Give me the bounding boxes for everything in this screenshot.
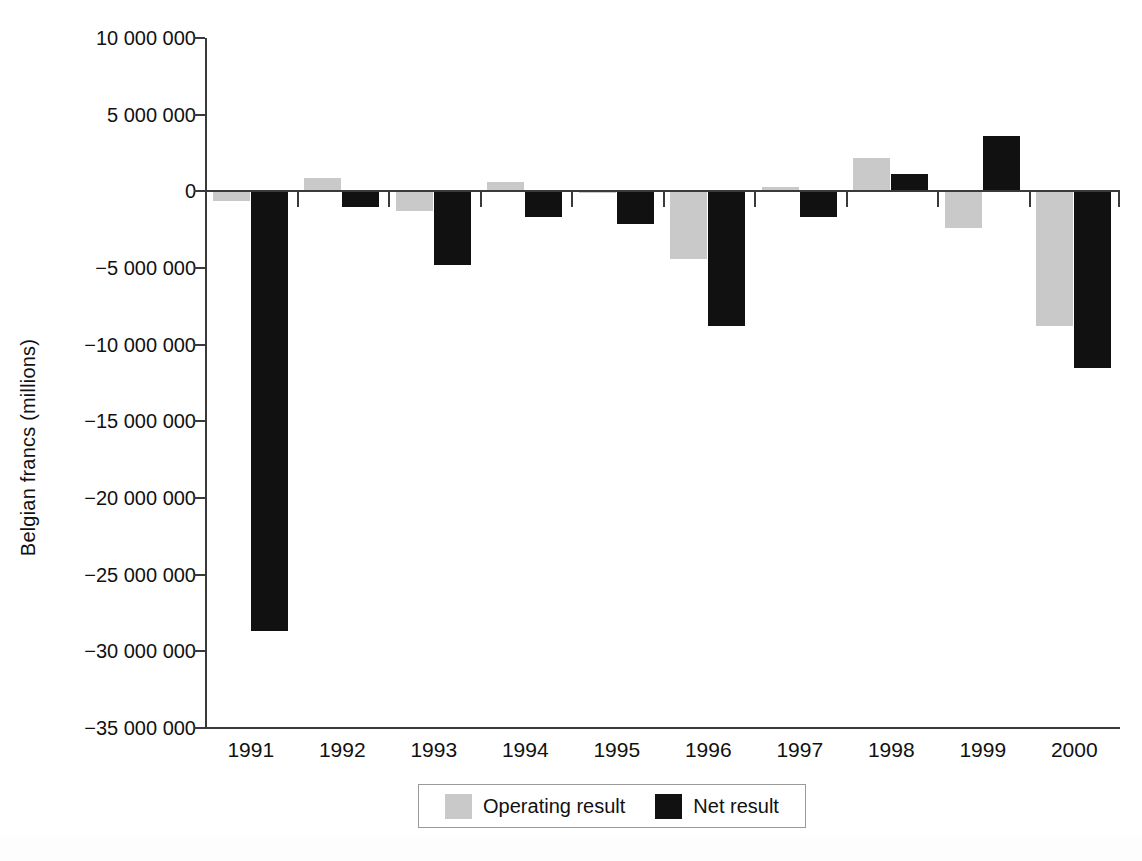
y-axis-tick [194,267,205,269]
x-axis-tick [388,191,390,207]
y-axis-tick [194,574,205,576]
zero-baseline [205,190,1120,192]
x-axis-tick [1029,191,1031,207]
bar-2000-net-result [1074,191,1111,367]
y-axis-tick-label: −15 000 000 [6,410,196,433]
y-axis-tick-label: −20 000 000 [6,487,196,510]
y-axis-tick-label: −5 000 000 [6,257,196,280]
chart-figure: Belgian francs (millions) 10 000 0005 00… [0,0,1142,861]
bar-1998-operating-result [853,158,890,192]
bar-1999-net-result [983,136,1020,191]
y-axis-tick [194,114,205,116]
legend-label-operating-result: Operating result [483,795,625,818]
x-axis-tick [480,191,482,207]
y-axis-tick [194,420,205,422]
bar-1994-net-result [525,191,562,217]
y-axis-line [205,38,207,728]
x-axis-tick-label: 1999 [959,738,1006,762]
x-axis-line [205,727,1120,729]
bar-1992-operating-result [304,178,341,192]
x-axis-tick [937,191,939,207]
y-axis-tick-label: 10 000 000 [6,27,196,50]
x-axis-tick-labels: 1991199219931994199519961997199819992000 [205,738,1120,772]
legend-swatch-operating-result [445,794,472,819]
y-axis-tick-label: −35 000 000 [6,717,196,740]
x-axis-tick-label: 2000 [1051,738,1098,762]
legend-item-operating-result: Operating result [445,794,625,819]
bar-1992-net-result [342,191,379,206]
bar-1991-operating-result [213,191,250,200]
x-axis-tick [205,191,207,207]
x-axis-tick-label: 1997 [776,738,823,762]
chart-legend: Operating result Net result [418,784,806,828]
bar-1995-net-result [617,191,654,223]
y-axis-tick-label: −10 000 000 [6,333,196,356]
bar-1993-operating-result [396,191,433,211]
bar-1999-operating-result [945,191,982,228]
y-axis-tick-label: 5 000 000 [6,103,196,126]
y-axis-tick-label: 0 [6,180,196,203]
bar-1996-operating-result [670,191,707,258]
legend-item-net-result: Net result [655,794,779,819]
x-axis-tick-label: 1992 [319,738,366,762]
legend-swatch-net-result [655,794,682,819]
y-axis-tick-labels: 10 000 0005 000 0000−5 000 000−10 000 00… [0,0,196,861]
bar-1997-net-result [800,191,837,217]
x-axis-tick-label: 1996 [685,738,732,762]
bar-1996-net-result [708,191,745,326]
bar-1991-net-result [251,191,288,631]
bar-1998-net-result [891,174,928,191]
x-axis-tick-label: 1998 [868,738,915,762]
y-axis-tick-label: −25 000 000 [6,563,196,586]
x-axis-tick-label: 1991 [227,738,274,762]
legend-label-net-result: Net result [693,795,779,818]
plot-area [205,38,1120,728]
x-axis-tick [1118,191,1120,207]
y-axis-tick [194,497,205,499]
x-axis-tick [571,191,573,207]
y-axis-tick [194,727,205,729]
y-axis-tick-label: −30 000 000 [6,640,196,663]
bar-2000-operating-result [1036,191,1073,326]
y-axis-tick [194,37,205,39]
x-axis-tick-label: 1993 [410,738,457,762]
y-axis-tick [194,190,205,192]
x-axis-tick-label: 1995 [593,738,640,762]
x-axis-tick [297,191,299,207]
page-edge [0,836,1142,861]
y-axis-tick [194,650,205,652]
bar-1993-net-result [434,191,471,265]
y-axis-tick [194,344,205,346]
x-axis-tick [663,191,665,207]
x-axis-tick [846,191,848,207]
x-axis-tick-label: 1994 [502,738,549,762]
x-axis-tick [754,191,756,207]
